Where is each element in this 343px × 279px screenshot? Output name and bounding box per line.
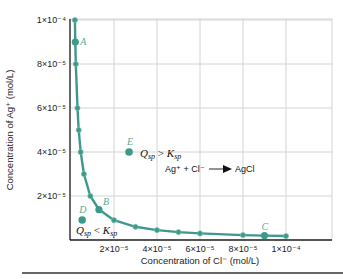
reaction-arrow-icon — [223, 165, 232, 173]
point-d-marker — [78, 216, 86, 224]
curve-point-marker — [75, 105, 80, 110]
reaction-product: AgCl — [235, 164, 255, 174]
curve-point-marker — [240, 232, 245, 237]
point-e-marker — [125, 148, 133, 156]
reaction-reactants: Ag⁺ + Cl⁻ — [165, 164, 205, 174]
point-a-label: A — [79, 36, 87, 47]
plot-frame — [70, 19, 332, 240]
point-b-label: B — [103, 196, 109, 207]
y-tick-label: 8×10⁻⁵ — [37, 59, 66, 69]
grid-lines — [70, 19, 332, 240]
y-tick-label: 2×10⁻⁵ — [37, 191, 66, 201]
y-tick-labels: 2×10⁻⁵4×10⁻⁵6×10⁻⁵8×10⁻⁵1×10⁻⁴ — [37, 15, 66, 201]
y-axis-title: Concentration of Ag⁺ (mol/L) — [4, 70, 15, 191]
curve-point-marker — [111, 218, 116, 223]
y-tick-label: 1×10⁻⁴ — [37, 15, 66, 25]
y-tick-label: 6×10⁻⁵ — [37, 103, 66, 113]
curve-point-marker — [154, 228, 159, 233]
curve-point-marker — [176, 229, 181, 234]
point-c-marker — [261, 232, 268, 239]
x-tick-labels: 2×10⁻⁵4×10⁻⁵6×10⁻⁵8×10⁻⁵1×10⁻⁴ — [99, 244, 300, 254]
curve-point-marker — [78, 149, 83, 154]
curve-point-marker — [72, 17, 77, 22]
curve-point-marker — [88, 193, 93, 198]
point-a-marker — [72, 38, 79, 45]
point-e-label: E — [126, 136, 133, 147]
point-b-marker — [95, 206, 102, 213]
annotation-qsp-less: Qsp < Ksp — [76, 224, 117, 238]
labeled-points: ABCDE — [72, 36, 269, 239]
ksp-chart: 2×10⁻⁵4×10⁻⁵6×10⁻⁵8×10⁻⁵1×10⁻⁴ 2×10⁻⁵4×1… — [0, 0, 343, 279]
point-d-label: D — [78, 204, 87, 215]
x-tick-label: 6×10⁻⁵ — [185, 244, 214, 254]
y-tick-label: 4×10⁻⁵ — [37, 147, 66, 157]
curve-point-marker — [81, 171, 86, 176]
annotation-qsp-greater: Qsp > Ksp — [140, 147, 181, 161]
x-tick-label: 4×10⁻⁵ — [142, 244, 171, 254]
curve-point-marker — [133, 224, 138, 229]
x-tick-label: 1×10⁻⁴ — [271, 244, 300, 254]
curve-point-marker — [73, 61, 78, 66]
curve-point-marker — [197, 231, 202, 236]
x-tick-label: 8×10⁻⁵ — [228, 244, 257, 254]
x-tick-label: 2×10⁻⁵ — [99, 244, 128, 254]
curve-point-marker — [76, 127, 81, 132]
point-c-label: C — [262, 221, 269, 232]
x-axis-title: Concentration of Cl⁻ (mol/L) — [141, 255, 260, 266]
curve-point-marker — [283, 233, 288, 238]
